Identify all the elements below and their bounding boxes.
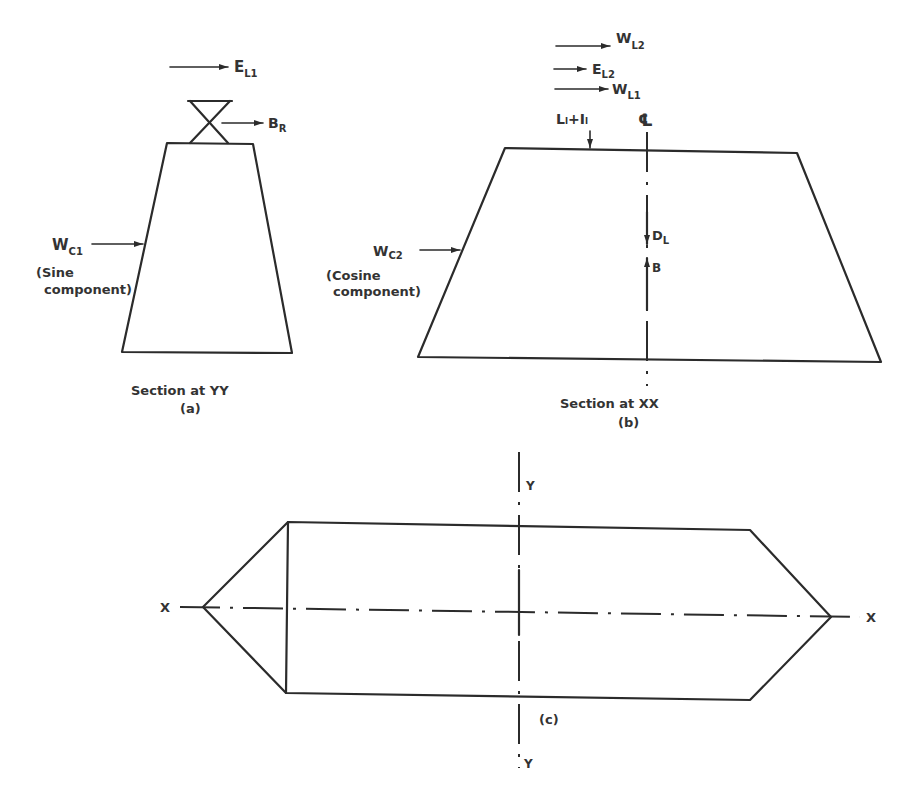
diagram-canvas: EL1 BR WC1 (Sine component) Section at Y… [0, 0, 910, 796]
pier-section-xx-outline [418, 148, 881, 362]
wc1-label: WC1 [52, 236, 83, 257]
b-label: B [652, 261, 661, 275]
wc2-note-line1: (Cosine [326, 268, 381, 283]
tag-a: (a) [180, 401, 201, 416]
panel-a-section-yy: EL1 BR WC1 (Sine component) Section at Y… [36, 58, 292, 416]
br-label: BR [268, 115, 287, 134]
el2-label: EL2 [592, 61, 615, 80]
caption-section-yy: Section at YY [131, 383, 229, 398]
y-axis-bottom-label: Y [523, 757, 533, 771]
ll-il-label: Lₗ+Iₗ [556, 111, 588, 127]
el1-label: EL1 [234, 58, 258, 79]
x-axis-left-label: X [160, 600, 170, 615]
wl1-label: WL1 [612, 81, 641, 101]
wl2-label: WL2 [616, 30, 645, 51]
wc2-label: WC2 [373, 243, 403, 261]
cutwater-line [286, 522, 288, 693]
y-axis-top-label: Y [525, 479, 535, 493]
tag-b: (b) [618, 415, 639, 430]
wc1-note-line1: (Sine [36, 265, 74, 280]
dl-label: DL [652, 228, 670, 246]
panel-c-plan: X X Y Y (c) [160, 452, 876, 771]
pier-section-yy-outline [122, 143, 292, 353]
caption-section-xx: Section at XX [560, 396, 659, 411]
panel-b-section-xx: ℄ WL2 EL2 WL1 Lₗ+Iₗ WC2 (Cosine componen… [326, 30, 881, 430]
centerline-icon: ℄ [638, 110, 653, 130]
wc1-note-line2: component) [44, 282, 132, 297]
tag-c: (c) [539, 712, 559, 727]
wc2-note-line2: component) [333, 284, 421, 299]
x-axis-right-label: X [866, 610, 876, 625]
bearing-icon [188, 101, 232, 143]
